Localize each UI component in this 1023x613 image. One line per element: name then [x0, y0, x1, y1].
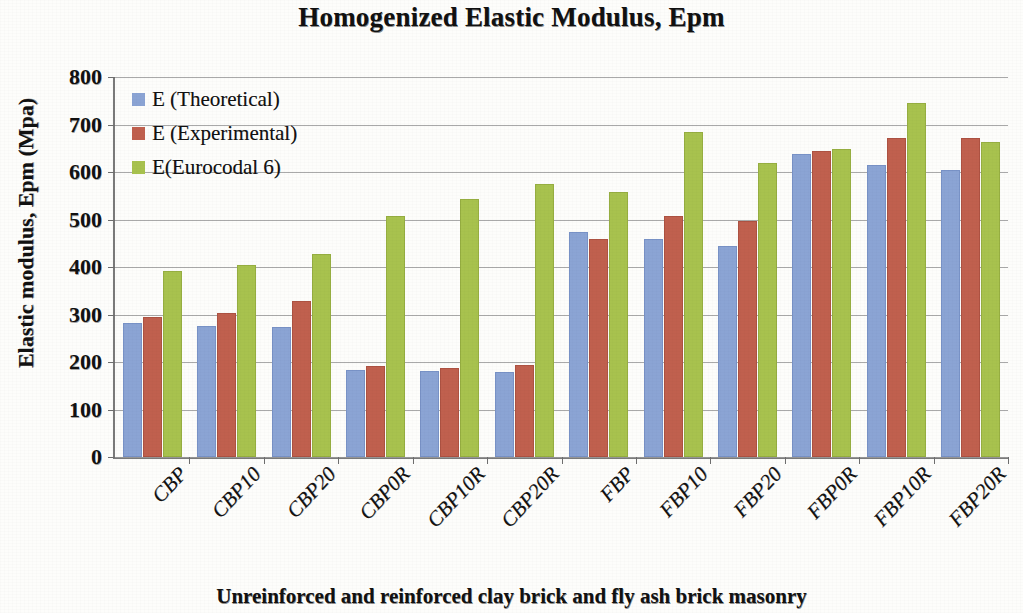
x-axis-tick-label: FBP10	[654, 462, 713, 523]
bar-CBP10R-series0[interactable]	[420, 371, 439, 457]
bar-group	[785, 77, 859, 457]
bar-FBP0R-series1[interactable]	[812, 151, 831, 457]
bar-group	[710, 77, 784, 457]
x-axis-tick-label: FBP10R	[869, 462, 937, 532]
x-axis-tick-label: CBP10R	[422, 462, 490, 533]
x-axis-title: Unreinforced and reinforced clay brick a…	[0, 584, 1023, 609]
y-axis-tick-label: 500	[69, 207, 102, 233]
bar-group	[636, 77, 710, 457]
bar-FBP20R-series0[interactable]	[941, 170, 960, 457]
y-axis-tick-mark	[108, 172, 115, 173]
legend-swatch-icon	[132, 93, 145, 106]
bar-group	[859, 77, 933, 457]
x-axis-tick-label: FBP20R	[943, 462, 1011, 532]
bar-FBP-series0[interactable]	[569, 232, 588, 457]
bar-CBP10R-series1[interactable]	[440, 368, 459, 457]
y-axis-tick-mark	[108, 457, 115, 458]
bar-FBP10-series2[interactable]	[684, 132, 703, 457]
bar-FBP10-series0[interactable]	[644, 239, 663, 457]
legend-item[interactable]: E(Eurocodal 6)	[132, 150, 342, 184]
y-axis-tick-mark	[108, 267, 115, 268]
y-axis-tick-label: 800	[69, 64, 102, 90]
bar-FBP20R-series1[interactable]	[961, 138, 980, 457]
bar-CBP0R-series1[interactable]	[366, 366, 385, 457]
y-axis-tick-mark	[108, 362, 115, 363]
bar-CBP0R-series0[interactable]	[346, 370, 365, 457]
bar-CBP20-series1[interactable]	[292, 301, 311, 457]
bar-group	[338, 77, 412, 457]
y-axis-title: Elastic modulus, Epm (Mpa)	[13, 53, 39, 413]
x-axis-tick-label: CBP10	[207, 462, 267, 523]
bar-group	[562, 77, 636, 457]
legend-swatch-icon	[132, 127, 145, 140]
legend-item[interactable]: E (Theoretical)	[132, 82, 342, 116]
y-axis-tick-label: 100	[69, 397, 102, 423]
y-axis-tick-mark	[108, 77, 115, 78]
x-axis-tick-label: FBP	[594, 462, 639, 507]
y-axis-tick-label: 0	[91, 444, 102, 470]
bar-group	[934, 77, 1008, 457]
bar-FBP20-series0[interactable]	[718, 246, 737, 457]
bar-FBP10-series1[interactable]	[664, 216, 683, 457]
chart-title: Homogenized Elastic Modulus, Epm	[0, 2, 1023, 33]
legend: E (Theoretical) E (Experimental) E(Euroc…	[132, 82, 342, 184]
bar-group	[487, 77, 561, 457]
y-axis-tick-label: 600	[69, 159, 102, 185]
bar-CBP10-series0[interactable]	[197, 326, 216, 457]
legend-label: E (Experimental)	[152, 121, 297, 146]
y-axis-tick-label: 700	[69, 112, 102, 138]
bar-CBP10R-series2[interactable]	[460, 199, 479, 457]
y-axis-tick-mark	[108, 410, 115, 411]
x-axis-tick-label: CBP20R	[496, 462, 564, 533]
y-axis-tick-labels: 0100200300400500600700800	[44, 77, 102, 457]
legend-label: E(Eurocodal 6)	[152, 155, 281, 180]
x-axis-tick-label: FBP20	[729, 462, 788, 523]
y-axis-tick-mark	[108, 220, 115, 221]
legend-label: E (Theoretical)	[152, 87, 280, 112]
bar-CBP20R-series0[interactable]	[495, 372, 514, 457]
bar-CBP-series2[interactable]	[163, 271, 182, 457]
y-axis-tick-mark	[108, 315, 115, 316]
x-axis-tick-label: CBP	[147, 462, 192, 508]
bar-FBP10R-series0[interactable]	[867, 165, 886, 457]
bar-FBP-series1[interactable]	[589, 239, 608, 457]
bar-CBP-series0[interactable]	[123, 323, 142, 457]
bar-FBP0R-series0[interactable]	[792, 154, 811, 457]
legend-swatch-icon	[132, 161, 145, 174]
bar-FBP0R-series2[interactable]	[832, 149, 851, 457]
bar-FBP10R-series2[interactable]	[907, 103, 926, 457]
bar-CBP20-series2[interactable]	[312, 254, 331, 457]
y-axis-tick-label: 300	[69, 302, 102, 328]
legend-item[interactable]: E (Experimental)	[132, 116, 342, 150]
x-axis-tick-label: FBP0R	[802, 462, 862, 524]
bar-group	[413, 77, 487, 457]
bar-CBP0R-series2[interactable]	[386, 216, 405, 457]
bar-CBP20R-series1[interactable]	[515, 365, 534, 457]
y-axis-tick-mark	[108, 125, 115, 126]
bar-CBP20-series0[interactable]	[272, 327, 291, 457]
x-axis-tick-label: CBP20	[281, 462, 341, 523]
x-axis-tick-mark	[1008, 457, 1009, 464]
bar-CBP20R-series2[interactable]	[535, 184, 554, 457]
bar-FBP20R-series2[interactable]	[981, 142, 1000, 458]
bar-FBP10R-series1[interactable]	[887, 138, 906, 457]
bar-CBP10-series1[interactable]	[217, 313, 236, 457]
y-axis-tick-label: 400	[69, 254, 102, 280]
bar-FBP20-series1[interactable]	[738, 221, 757, 457]
y-axis-tick-label: 200	[69, 349, 102, 375]
bar-FBP-series2[interactable]	[609, 192, 628, 457]
bar-CBP10-series2[interactable]	[237, 265, 256, 457]
x-axis-tick-label: CBP0R	[354, 462, 415, 525]
bar-CBP-series1[interactable]	[143, 317, 162, 457]
x-axis-tick-labels: CBPCBP10CBP20CBP0RCBP10RCBP20RFBPFBP10FB…	[113, 462, 1006, 572]
bar-FBP20-series2[interactable]	[758, 163, 777, 457]
